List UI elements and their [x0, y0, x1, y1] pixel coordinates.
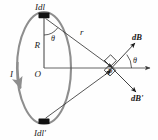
theta-arc-right	[127, 55, 132, 68]
label-angle-top: θ	[51, 34, 55, 43]
physics-diagram-figure: Idl Idl' I R O r θ θ dB dB' P	[0, 0, 158, 140]
label-current-element-top: Idl	[34, 2, 45, 12]
label-field-lower: dB'	[131, 93, 144, 103]
current-element-marker-top	[39, 13, 50, 19]
label-angle-right: θ	[133, 56, 137, 65]
label-current-element-bottom: Idl'	[33, 128, 47, 138]
current-element-marker-bottom	[39, 118, 50, 124]
r-line-upper	[46, 18, 113, 67]
label-field-upper: dB	[132, 32, 142, 42]
label-center: O	[35, 69, 42, 79]
label-current: I	[9, 69, 14, 79]
diagram-canvas: Idl Idl' I R O r θ θ dB dB' P	[0, 0, 158, 140]
label-field-point: P	[107, 68, 113, 77]
label-distance-r: r	[80, 27, 84, 37]
r-line-lower	[46, 70, 112, 118]
label-radius: R	[34, 40, 41, 50]
